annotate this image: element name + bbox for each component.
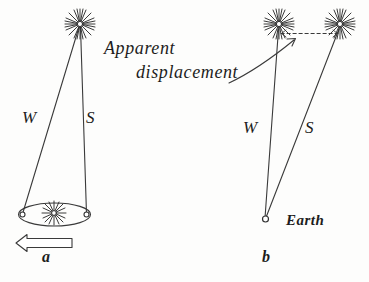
panel-a-group	[16, 9, 95, 252]
parallax-diagram-figure: Apparent displacement W S a W S Earth b	[0, 0, 369, 282]
caption-line-1: Apparent	[104, 38, 175, 58]
star-burst-icon-a	[65, 9, 95, 39]
observer-point-summer	[84, 212, 89, 217]
label-w-panel-a: W	[22, 108, 37, 128]
label-s-panel-b: S	[305, 118, 314, 138]
sun-burst-icon	[42, 201, 66, 225]
leader-line-arrow-icon	[229, 39, 296, 84]
earth-point-icon	[263, 216, 269, 222]
star-burst-icon-b-right	[325, 9, 355, 39]
star-burst-icon-b-left	[264, 9, 294, 39]
label-s-panel-a: S	[86, 108, 95, 128]
panel-b-group	[263, 9, 356, 222]
panel-label-a: a	[42, 248, 51, 266]
caption-line-2: displacement	[104, 60, 238, 84]
annotation-caption: Apparent displacement	[104, 36, 238, 85]
panel-label-b: b	[262, 248, 271, 266]
label-w-panel-b: W	[243, 118, 258, 138]
observer-point-west	[20, 212, 25, 217]
label-earth: Earth	[286, 212, 324, 229]
